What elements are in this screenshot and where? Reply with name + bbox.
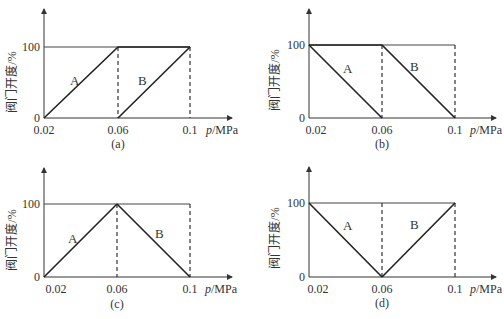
x-tick-002: 0.02 <box>308 282 329 296</box>
series-b-label: B <box>138 73 147 88</box>
panel-b: A B 100 0 0.02 0.06 0.1 p/MPa 阀门开度/% (b) <box>267 9 503 151</box>
series-a-label: A <box>68 231 78 246</box>
x-tick-002: 0.02 <box>34 123 55 137</box>
series-b-label: B <box>410 59 419 74</box>
y-tick-100: 100 <box>22 40 40 54</box>
y-tick-100: 100 <box>287 38 305 52</box>
x-tick-01: 0.1 <box>183 123 198 137</box>
x-axis-label: p/MPa <box>469 123 503 137</box>
y-tick-0: 0 <box>299 270 305 284</box>
caption-d: (d) <box>375 296 389 310</box>
series-a-label: A <box>343 61 353 76</box>
y-tick-0: 0 <box>299 111 305 125</box>
caption-a: (a) <box>111 137 124 151</box>
x-tick-006: 0.06 <box>107 282 128 296</box>
series-a-line <box>44 204 117 277</box>
series-b-line <box>118 47 190 118</box>
y-axis-label: 阀门开度/% <box>4 51 19 112</box>
series-a-label: A <box>70 73 80 88</box>
x-tick-01: 0.1 <box>448 123 463 137</box>
valve-opening-charts: A B 100 0 0.02 0.06 0.1 p/MPa 阀门开度/% (a)… <box>0 0 504 319</box>
series-a-label: A <box>343 218 353 233</box>
x-tick-01: 0.1 <box>183 282 198 296</box>
x-tick-002: 0.02 <box>306 123 327 137</box>
x-axis-label: p/MPa <box>205 123 239 137</box>
panel-c: A B 100 0 0.02 0.06 0.1 p/MPa 阀门开度/% (c) <box>4 168 238 311</box>
panel-a: A B 100 0 0.02 0.06 0.1 p/MPa 阀门开度/% (a) <box>4 9 239 151</box>
series-b-line <box>382 203 455 277</box>
series-b-label: B <box>155 226 164 241</box>
y-axis-label: 阀门开度/% <box>4 209 19 270</box>
x-tick-006: 0.06 <box>372 282 393 296</box>
series-a-line <box>309 45 382 118</box>
y-tick-0: 0 <box>34 270 40 284</box>
caption-b: (b) <box>375 137 389 151</box>
x-tick-01: 0.1 <box>448 282 463 296</box>
x-tick-002: 0.02 <box>46 282 67 296</box>
panel-d: A B 100 0 0.02 0.06 0.1 p/MPa 阀门开度/% (d) <box>267 167 503 310</box>
series-a-line <box>309 203 382 277</box>
y-tick-100: 100 <box>287 196 305 210</box>
x-tick-006: 0.06 <box>372 123 393 137</box>
x-tick-006: 0.06 <box>108 123 129 137</box>
y-axis-label: 阀门开度/% <box>267 49 282 110</box>
x-axis-label: p/MPa <box>469 282 503 296</box>
caption-c: (c) <box>110 297 123 311</box>
x-axis-label: p/MPa <box>204 282 238 296</box>
y-axis-label: 阀门开度/% <box>267 207 282 268</box>
y-tick-100: 100 <box>22 197 40 211</box>
series-b-label: B <box>410 217 419 232</box>
series-a-line <box>44 47 190 118</box>
series-b-line <box>117 204 190 277</box>
